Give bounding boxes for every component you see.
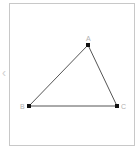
label-c: C [121,103,126,110]
edge-ca [88,45,117,106]
point-b[interactable] [27,104,31,108]
triangle-diagram: A B C [0,0,138,150]
point-c[interactable] [115,104,119,108]
label-a: A [86,35,91,42]
label-b: B [20,103,25,110]
edge-ab [29,45,88,106]
point-a[interactable] [86,43,90,47]
